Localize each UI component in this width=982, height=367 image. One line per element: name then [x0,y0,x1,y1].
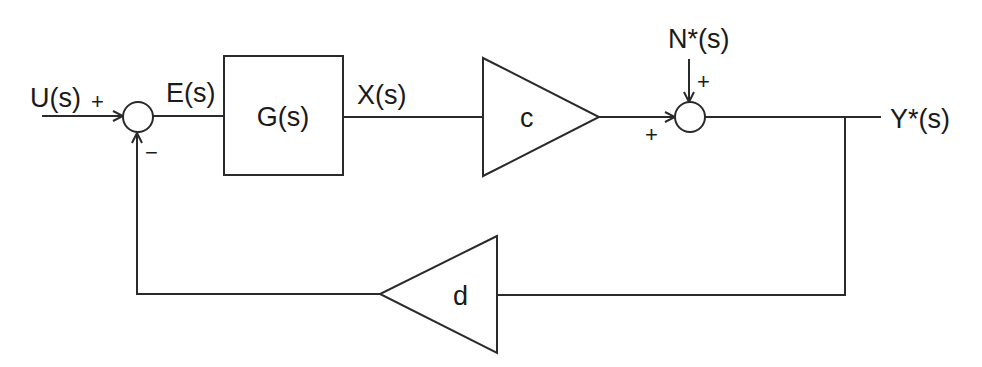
block-diagram: U(s) + − E(s) G(s) X(s) c + N*(s) + Y*(s… [0,0,982,367]
feedback-gain-label: d [453,281,468,311]
feedback-wire-right [497,117,845,295]
plant-output-label: X(s) [357,80,407,110]
forward-gain-label: c [520,103,534,133]
input-label: U(s) [30,83,81,113]
junction2-noise-plus-sign: + [697,69,710,94]
junction1-plus-sign: + [91,89,104,114]
noise-label: N*(s) [668,24,730,54]
summing-junction-2 [675,102,705,132]
output-label: Y*(s) [890,104,950,134]
feedback-gain-block [380,236,497,353]
error-label: E(s) [166,78,216,108]
junction2-forward-plus-sign: + [645,122,658,147]
junction1-minus-sign: − [145,140,158,165]
forward-gain-block [483,58,599,176]
plant-label: G(s) [257,102,309,132]
summing-junction-1 [123,102,153,132]
